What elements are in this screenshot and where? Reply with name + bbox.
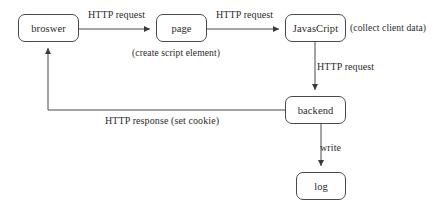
edge-label-page-to-javascript: HTTP request: [216, 9, 273, 20]
node-backend-label: backend: [298, 105, 334, 116]
node-javascript[interactable]: JavasCript: [285, 14, 346, 42]
annotation-javascript-note: (collect client data): [350, 22, 426, 33]
node-javascript-label: JavasCript: [293, 23, 338, 34]
diagram-canvas: broswer page JavasCript backend log HTTP…: [0, 0, 444, 212]
node-log[interactable]: log: [296, 172, 346, 200]
node-log-label: log: [314, 181, 328, 192]
node-page-label: page: [171, 23, 191, 34]
edge-label-backend-to-browser: HTTP response (set cookie): [105, 115, 219, 126]
node-backend[interactable]: backend: [285, 96, 346, 124]
edge-label-javascript-to-backend: HTTP request: [317, 61, 374, 72]
node-browser-label: broswer: [31, 23, 66, 34]
annotation-page-note: (create script element): [132, 47, 220, 58]
node-page[interactable]: page: [156, 14, 207, 42]
edge-label-browser-to-page: HTTP request: [88, 9, 145, 20]
node-browser[interactable]: broswer: [18, 14, 79, 42]
edge-label-backend-to-log: write: [320, 142, 341, 153]
